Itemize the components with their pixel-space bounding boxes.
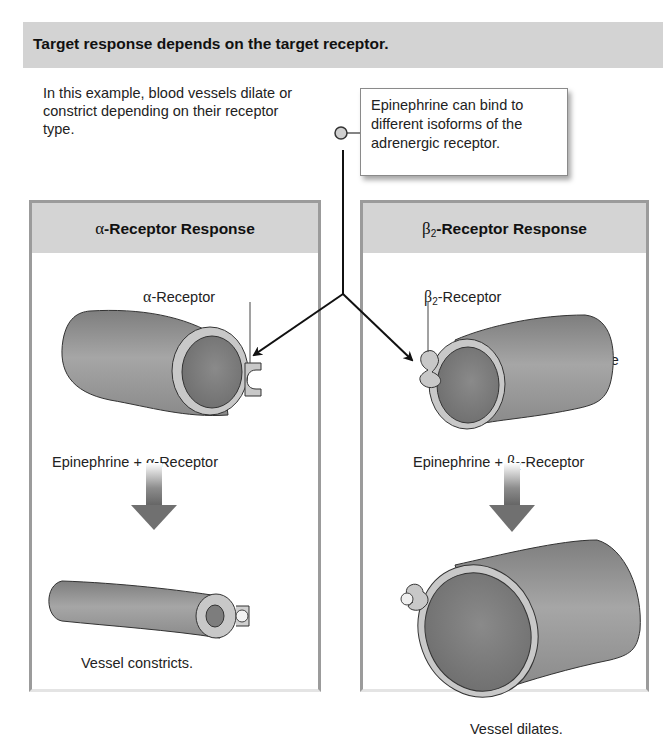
arrow-to-beta2-icon (343, 294, 412, 360)
beta2-down-arrow-icon (489, 463, 535, 532)
epinephrine-circle-icon (335, 127, 347, 139)
epinephrine-connector (254, 127, 412, 360)
dilated-vessel-icon (400, 540, 641, 714)
alpha-receptor-icon (245, 363, 261, 396)
diagram-illustrations (0, 0, 672, 743)
bound-epinephrine-icon (236, 610, 248, 622)
skeletal-vessel-icon (420, 302, 613, 429)
alpha-down-arrow-icon (131, 463, 177, 530)
arrow-to-alpha-icon (254, 294, 343, 355)
intestinal-vessel-icon (62, 302, 261, 416)
constricted-vessel-icon (49, 581, 249, 638)
